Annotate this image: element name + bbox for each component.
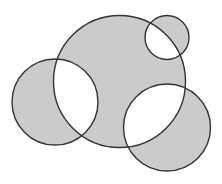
- overlapping-circles-diagram: [0, 0, 222, 184]
